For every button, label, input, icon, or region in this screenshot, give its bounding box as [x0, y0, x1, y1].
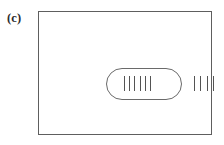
tick-mark [200, 76, 201, 91]
tick-mark [129, 76, 130, 91]
panel-label: (c) [7, 11, 21, 25]
tick-mark [124, 76, 125, 91]
tick-mark [194, 76, 195, 91]
tick-mark [145, 76, 146, 91]
tick-mark [207, 76, 208, 91]
tick-mark [140, 76, 141, 91]
figure-panel: (c) [0, 0, 224, 145]
tick-mark [213, 76, 214, 91]
outer-tick-group [194, 76, 214, 91]
tick-mark [150, 76, 151, 91]
tick-mark [134, 76, 135, 91]
outer-rectangle-frame [38, 11, 212, 135]
inner-tick-group [124, 76, 151, 91]
